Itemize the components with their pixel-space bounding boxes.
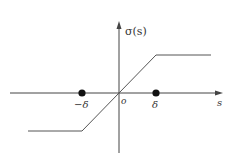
y-axis-arrow-icon	[117, 21, 122, 29]
x-axis-arrow-icon	[215, 91, 223, 96]
saturation-diagram: σ(s) s o −δ δ	[0, 0, 237, 166]
neg-delta-label: −δ	[74, 99, 88, 110]
y-axis	[117, 21, 122, 153]
neg-delta-point	[78, 89, 85, 96]
origin-label: o	[121, 96, 127, 106]
pos-delta-point	[152, 89, 159, 96]
pos-delta-label: δ	[152, 99, 158, 110]
x-axis	[10, 91, 223, 96]
x-axis-label: s	[217, 97, 222, 108]
y-axis-label: σ(s)	[125, 25, 147, 38]
